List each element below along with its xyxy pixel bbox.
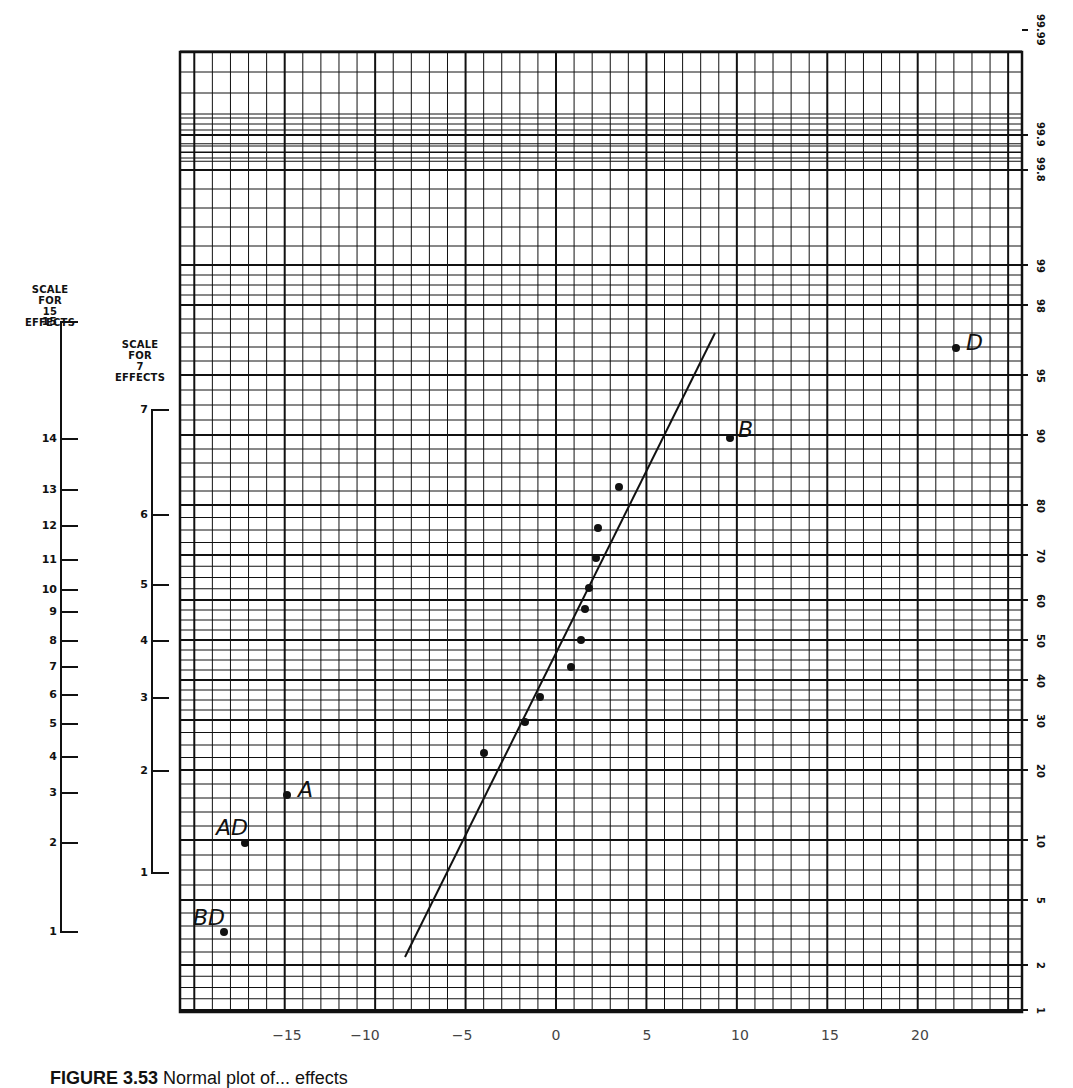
right-tick-label: 1 [1035,1007,1046,1014]
data-point [592,554,600,562]
x-tick-label: 10 [731,1027,749,1043]
data-point [241,839,249,847]
grid-minor-lines [180,51,1022,1012]
right-tick-label: 50 [1035,634,1046,648]
reference-line [405,333,715,957]
data-point [581,605,589,613]
point-label: A [296,777,313,802]
right-tick-label: 40 [1035,674,1046,688]
right-tick-label: 99.99 [1035,14,1046,46]
grid-frame [180,52,1022,1012]
x-tick-label: 15 [821,1027,839,1043]
x-tick-label: −10 [350,1027,380,1043]
data-point [952,344,960,352]
figure-caption: FIGURE 3.53 Normal plot of... effects [50,1068,348,1088]
x-tick-label: −5 [452,1027,473,1043]
right-tick-label: 95 [1035,369,1046,383]
point-label: D [966,330,983,355]
point-label: AD [214,815,248,840]
x-tick-label: 20 [911,1027,929,1043]
data-point [594,524,602,532]
data-point [283,791,291,799]
data-point [615,483,623,491]
right-tick-label: 70 [1035,549,1046,563]
right-tick-label: 30 [1035,714,1046,728]
normal-probability-plot: BDADABD [0,0,1073,1088]
right-tick-label: 10 [1035,834,1046,848]
figure-caption-label: FIGURE 3.53 [50,1068,158,1088]
data-point [521,718,529,726]
right-tick-label: 80 [1035,499,1046,513]
right-tick-label: 20 [1035,764,1046,778]
data-point [585,584,593,592]
grid-major-lines [180,52,1022,1012]
point-label: BD [193,905,225,930]
data-point [480,749,488,757]
right-tick-label: 5 [1035,897,1046,904]
data-point [726,434,734,442]
point-label: B [738,417,753,442]
data-point [577,636,585,644]
right-tick-label: 99 [1035,259,1046,273]
right-tick-label: 99.8 [1035,157,1046,182]
right-tick-label: 98 [1035,299,1046,313]
data-point [567,663,575,671]
x-tick-label: −15 [272,1027,302,1043]
x-tick-label: 0 [552,1027,561,1043]
right-tick-label: 90 [1035,429,1046,443]
figure-caption-text: Normal plot of... effects [163,1068,348,1088]
right-tick-label: 99.9 [1035,122,1046,147]
right-tick-label: 60 [1035,594,1046,608]
data-point [536,693,544,701]
x-tick-label: 5 [643,1027,652,1043]
right-tick-label: 2 [1035,962,1046,969]
